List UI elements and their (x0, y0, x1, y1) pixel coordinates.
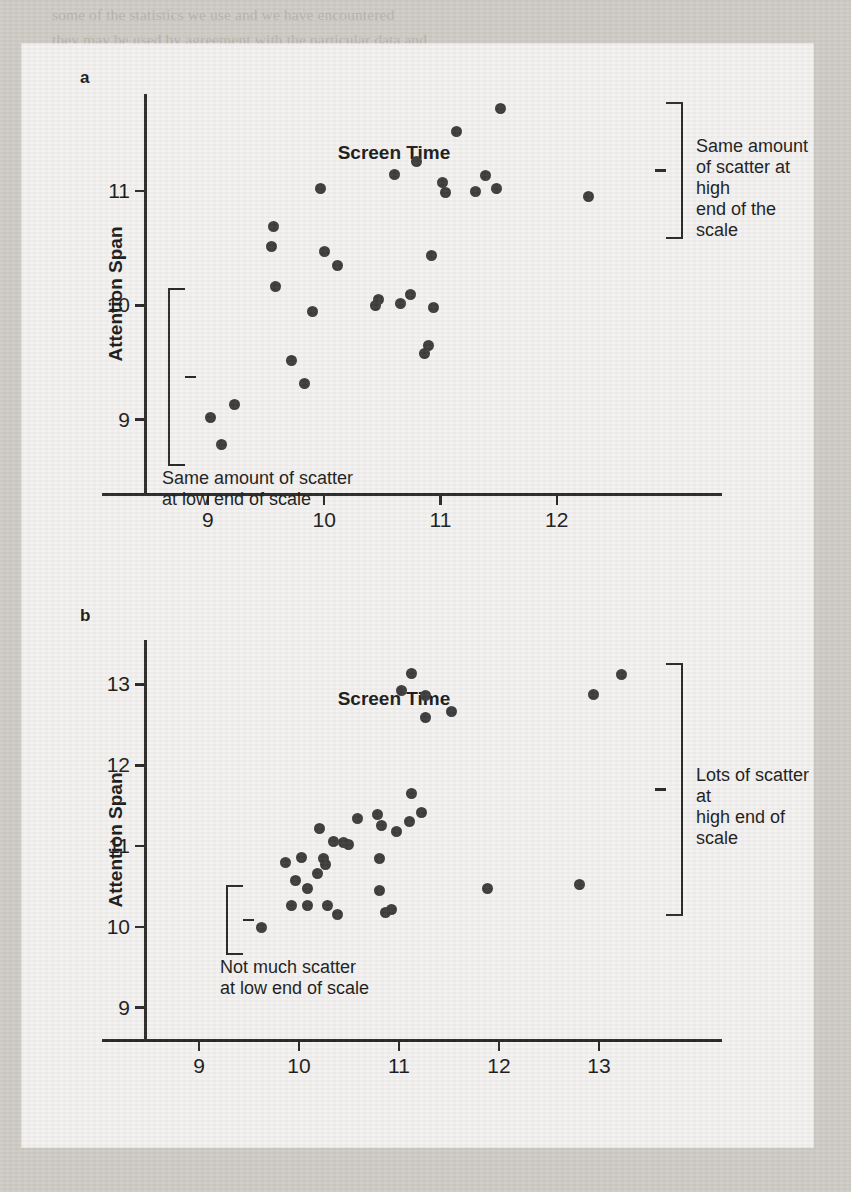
scatter-point (332, 260, 343, 271)
scatter-point (426, 250, 437, 261)
scatter-point (396, 685, 407, 696)
y-tick-mark (135, 418, 144, 421)
panel-b-low-end-scatter-note: Not much scatter at low end of scale (220, 957, 369, 999)
scatter-point (296, 852, 307, 863)
panel-b-x-axis (102, 1039, 722, 1042)
scatter-point (229, 399, 240, 410)
scatter-point (404, 816, 415, 827)
scatter-point (352, 813, 363, 824)
x-tick-mark (556, 495, 559, 505)
panel-b-letter: b (80, 606, 90, 626)
y-tick-mark (135, 1006, 144, 1009)
scatter-point (495, 103, 506, 114)
y-tick-label: 11 (108, 179, 130, 203)
scatter-point (411, 156, 422, 167)
x-tick-mark (598, 1041, 601, 1051)
y-tick-label: 10 (107, 293, 130, 317)
bracket-nub (185, 376, 196, 379)
y-tick-label: 12 (107, 753, 130, 777)
scatter-point (314, 823, 325, 834)
panel-a-low-end-scatter-note: Same amount of scatter at low end of sca… (162, 468, 353, 510)
y-tick-mark (135, 764, 144, 767)
scanned-page: some of the statistics we use and we hav… (0, 0, 851, 1192)
scatter-point (405, 289, 416, 300)
background-text-line: some of the statistics we use and we hav… (52, 2, 812, 27)
scatter-point (270, 281, 281, 292)
x-tick-label: 10 (287, 1054, 310, 1078)
x-tick-mark (198, 1041, 201, 1051)
x-tick-label: 10 (313, 508, 336, 532)
y-tick-mark (135, 926, 144, 929)
scatter-point (374, 853, 385, 864)
low-end-scatter-bracket (226, 885, 243, 955)
panel-a-high-end-scatter-note: Same amount of scatter at high end of th… (696, 136, 813, 241)
scatter-point (451, 126, 462, 137)
scatter-point (205, 412, 216, 423)
panel-b-plot-area: Attention Span Screen Time 1312111099101… (144, 640, 644, 1040)
scatter-point (343, 839, 354, 850)
panel-b-high-end-scatter-note: Lots of scatter at high end of scale (696, 765, 813, 849)
scatter-point (322, 900, 333, 911)
scatter-point (420, 690, 431, 701)
scatter-point (290, 875, 301, 886)
scatter-point (440, 187, 451, 198)
scatter-point (286, 900, 297, 911)
x-tick-label: 12 (487, 1054, 510, 1078)
scatter-point (373, 294, 384, 305)
scatter-point (482, 883, 493, 894)
panel-a: a Attention Span Screen Time 11109910111… (22, 48, 813, 588)
scatter-point (332, 909, 343, 920)
scatter-point (391, 826, 402, 837)
scatter-point (256, 922, 267, 933)
scatter-point (307, 306, 318, 317)
scatter-point (266, 241, 277, 252)
scatter-point (374, 885, 385, 896)
scatter-point (216, 439, 227, 450)
scatter-point (583, 191, 594, 202)
panel-a-x-axis-title: Screen Time (338, 142, 451, 164)
y-tick-label: 11 (108, 834, 130, 858)
scatter-point (588, 689, 599, 700)
scatter-point (395, 298, 406, 309)
x-tick-label: 13 (587, 1054, 610, 1078)
scatter-point (437, 177, 448, 188)
low-end-scatter-bracket (168, 288, 185, 466)
y-tick-mark (135, 304, 144, 307)
scatter-point (406, 788, 417, 799)
x-tick-mark (498, 1041, 501, 1051)
scatter-point (376, 820, 387, 831)
y-tick-mark (135, 190, 144, 193)
scatter-point (386, 904, 397, 915)
panel-a-letter: a (80, 68, 89, 88)
scatter-point (420, 712, 431, 723)
figure-card: a Attention Span Screen Time 11109910111… (22, 44, 813, 1147)
scatter-point (470, 186, 481, 197)
scatter-point (406, 668, 417, 679)
scatter-point (268, 221, 279, 232)
scatter-point (286, 355, 297, 366)
x-tick-mark (298, 1041, 301, 1051)
scatter-point (428, 302, 439, 313)
scatter-point (302, 883, 313, 894)
panel-b-x-axis-title: Screen Time (338, 688, 451, 710)
panel-a-y-axis (144, 94, 147, 494)
scatter-point (312, 868, 323, 879)
x-tick-mark (439, 495, 442, 505)
scatter-point (320, 859, 331, 870)
scatter-point (315, 183, 326, 194)
scatter-point (280, 857, 291, 868)
scatter-point (389, 169, 400, 180)
bracket-nub (243, 919, 254, 922)
scatter-point (416, 807, 427, 818)
y-tick-mark (135, 845, 144, 848)
scatter-point (491, 183, 502, 194)
panel-b: b Attention Span Screen Time 13121110991… (22, 592, 813, 1147)
scatter-point (446, 706, 457, 717)
scatter-point (302, 900, 313, 911)
scatter-point (616, 669, 627, 680)
scatter-point (299, 378, 310, 389)
x-tick-label: 11 (388, 1054, 410, 1078)
y-tick-label: 13 (107, 672, 130, 696)
scatter-point (419, 348, 430, 359)
y-tick-label: 9 (118, 996, 130, 1020)
